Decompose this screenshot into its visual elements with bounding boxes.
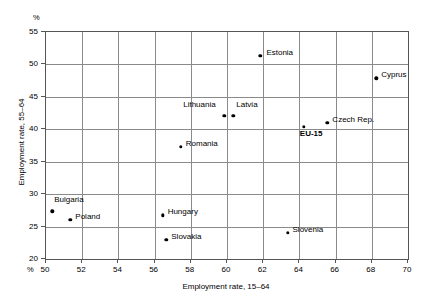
x-axis-tick [81,259,82,263]
x-axis-title: Employment rate, 15–64 [45,282,407,292]
gridline-horizontal [46,162,408,163]
x-axis-tick-label: 50 [33,265,57,274]
x-axis-tick-label: 54 [105,265,129,274]
gridline-vertical [336,32,337,259]
data-point-label: Romania [186,139,218,148]
data-point-label: EU-15 [300,129,323,138]
y-axis-unit-label: % [33,13,40,22]
gridline-horizontal [46,129,408,130]
x-axis-tick [298,259,299,263]
x-axis-tick [117,259,118,263]
y-axis-tick-label: 55 [20,27,38,36]
gridline-vertical [155,32,156,259]
data-point-label: Estonia [266,48,293,57]
gridline-horizontal [46,227,408,228]
x-axis-tick [190,259,191,263]
data-point-label: Bulgaria [54,195,83,204]
x-axis-tick [45,259,46,263]
x-axis-tick-label: 62 [250,265,274,274]
data-point-label: Slovakia [171,232,201,241]
x-axis-tick-label: 66 [323,265,347,274]
data-point-label: Czech Rep. [332,115,374,124]
x-axis-tick [154,259,155,263]
y-axis-title: Employment rate, 55–64 [17,62,27,222]
x-axis-tick-label: 58 [178,265,202,274]
y-axis-tick [41,31,45,32]
x-axis-tick-label: 56 [142,265,166,274]
x-axis-tick [262,259,263,263]
data-point-label: Latvia [236,100,257,109]
gridline-vertical [263,32,264,259]
y-axis-tick [41,63,45,64]
data-point-label: Slovenia [293,225,324,234]
y-axis-tick [41,258,45,259]
gridline-vertical [372,32,373,259]
x-axis-tick [335,259,336,263]
x-axis-tick [371,259,372,263]
x-axis-tick-label: 52 [69,265,93,274]
y-axis-tick [41,161,45,162]
gridline-horizontal [46,97,408,98]
gridline-vertical [82,32,83,259]
x-axis-tick-label: 70 [395,265,419,274]
data-point-label: Poland [75,212,100,221]
y-axis-tick [41,193,45,194]
y-axis-tick-label: 25 [20,222,38,231]
plot-area [45,31,409,260]
x-axis-tick-label: 68 [359,265,383,274]
data-point-label: Hungary [168,207,198,216]
y-axis-tick-label: 20 [20,254,38,263]
gridline-horizontal [46,64,408,65]
gridline-vertical [227,32,228,259]
x-axis-tick [407,259,408,263]
y-axis-tick [41,128,45,129]
gridline-vertical [118,32,119,259]
data-point-label: Cyprus [381,70,406,79]
x-axis-tick-label: 60 [214,265,238,274]
y-axis-tick [41,226,45,227]
x-axis-tick-label: 64 [286,265,310,274]
y-axis-tick [41,96,45,97]
gridline-horizontal [46,194,408,195]
scatter-chart: % % 505254565860626466687020253035404550… [0,0,426,304]
data-point-label: Lithuania [183,100,215,109]
x-axis-tick [226,259,227,263]
